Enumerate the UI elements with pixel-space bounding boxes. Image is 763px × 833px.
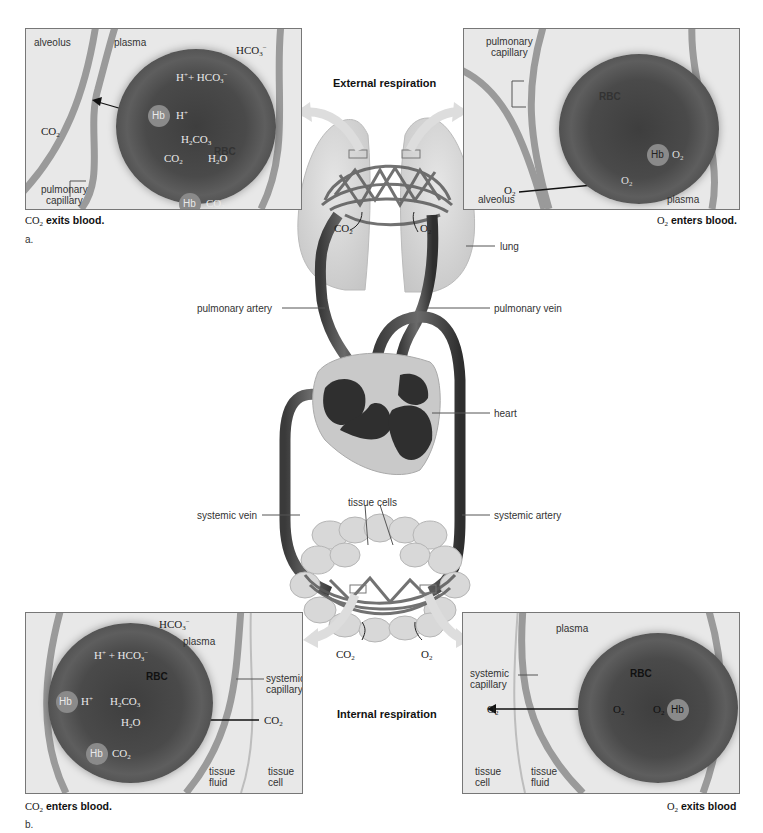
- pulmonary-capillary-label: pulmonary capillary: [41, 184, 88, 206]
- part-a-label: a.: [25, 234, 33, 245]
- plasma-label: plasma: [183, 636, 215, 647]
- hco3-plasma-label: HCO3−: [159, 618, 190, 632]
- lung-o2-label: O2: [420, 222, 431, 236]
- o2-hb-label: O2: [653, 703, 664, 717]
- tissue-fluid-label: tissue fluid: [209, 766, 235, 788]
- hb-label: Hb: [59, 696, 72, 707]
- hco3-plasma-label: HCO3−: [236, 44, 267, 58]
- panel-co2-enters-blood: HCO3− plasma H+ + HCO3− RBC Hb H+ H2CO3 …: [25, 612, 303, 794]
- rbc-label: RBC: [146, 671, 168, 682]
- caption-co2-enters: CO2 enters blood.: [25, 800, 112, 814]
- co2-in-label: CO2: [264, 714, 283, 728]
- tissue-cell-label: tissue cell: [475, 766, 501, 788]
- systemic-capillary-label: systemic capillary: [266, 673, 303, 695]
- systemic-artery-label: systemic artery: [494, 510, 561, 521]
- h-plus-hco3-label: H+ + HCO3−: [94, 649, 148, 663]
- part-b-label: b.: [25, 819, 33, 830]
- rbc-label: RBC: [599, 91, 621, 102]
- pulmonary-capillary-label: pulmonary capillary: [486, 36, 533, 58]
- panel-o2-enters-blood: pulmonary capillary RBC Hb O2 O2 O2 alve…: [463, 28, 740, 210]
- plasma-label: plasma: [667, 194, 699, 205]
- panel-o2-exits-blood: plasma RBC systemic capillary O2 O2 O2 H…: [462, 612, 740, 794]
- o2-hb-label: O2: [672, 148, 683, 162]
- hb2-label: Hb: [90, 748, 103, 759]
- h2co3-label: H2CO3: [110, 695, 140, 709]
- lung-co2-label: CO2: [334, 222, 353, 236]
- co2-hb-label: CO2: [206, 197, 225, 210]
- systemic-vein-label: systemic vein: [197, 510, 257, 521]
- h2o-label: H2O: [208, 152, 227, 166]
- systemic-capillary-label: systemic capillary: [470, 668, 509, 690]
- rbc-label: RBC: [630, 668, 652, 679]
- o2-out-label: O2: [487, 703, 498, 717]
- heart-label: heart: [494, 408, 517, 419]
- internal-respiration-title: Internal respiration: [337, 708, 437, 720]
- caption-co2-exits: CO2 exits blood.: [25, 214, 104, 228]
- plasma-label: plasma: [114, 37, 146, 48]
- h-plus-label: H+: [176, 109, 188, 121]
- alveolus-label: alveolus: [478, 194, 515, 205]
- hb-label: Hb: [671, 704, 684, 715]
- tissue-cells-label: tissue cells: [348, 497, 397, 508]
- lung-label: lung: [500, 241, 519, 252]
- o2-inside-label: O2: [613, 703, 624, 717]
- co2-out-label: CO2: [41, 125, 60, 139]
- caption-o2-enters: O2 enters blood.: [657, 214, 737, 228]
- panel-co2-exits-blood: alveolus plasma RBC pulmonary capillary …: [25, 28, 302, 210]
- pulmonary-vein-label: pulmonary vein: [494, 303, 562, 314]
- h2co3-label: H2CO3: [181, 133, 211, 147]
- tissue-fluid-label: tissue fluid: [531, 766, 557, 788]
- co2-inside-label: CO2: [164, 152, 183, 166]
- caption-o2-exits: O2 exits blood: [667, 800, 736, 814]
- h-plus-hco3-label: H++ HCO3−: [176, 71, 228, 85]
- h-plus-label: H+: [81, 695, 93, 707]
- hb-label: Hb: [152, 110, 165, 121]
- o2-inside-label: O2: [621, 174, 632, 188]
- external-respiration-title: External respiration: [333, 77, 436, 89]
- tissue-co2-label: CO2: [336, 648, 355, 662]
- pulmonary-artery-label: pulmonary artery: [197, 303, 272, 314]
- tissue-o2-label: O2: [421, 648, 432, 662]
- alveolus-label: alveolus: [34, 37, 71, 48]
- tissue-cell-label: tissue cell: [268, 766, 294, 788]
- hb-label: Hb: [651, 149, 664, 160]
- co2-hb-label: CO2: [112, 747, 131, 761]
- h2o-label: H2O: [121, 716, 140, 730]
- hb2-label: Hb: [183, 198, 196, 209]
- plasma-label: plasma: [556, 623, 588, 634]
- rbc: [559, 54, 719, 204]
